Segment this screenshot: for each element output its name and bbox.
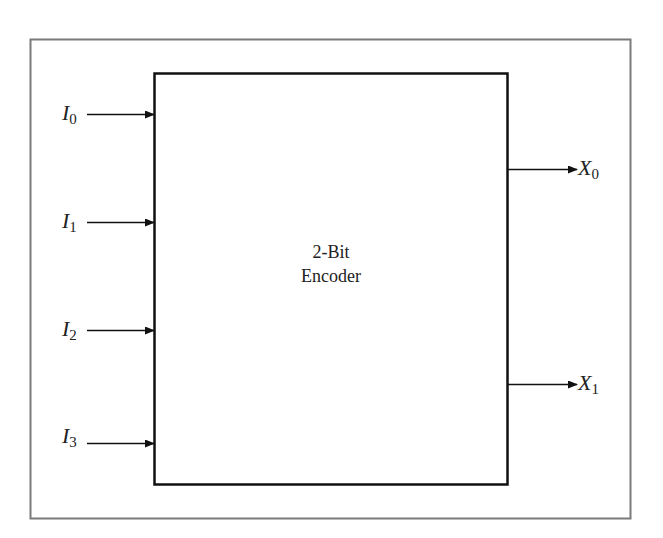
block-title-line2: Encoder bbox=[301, 266, 361, 286]
svg-text:I0: I0 bbox=[61, 100, 77, 127]
encoder-diagram: 2-Bit Encoder I0 I1 I2 I3 X0 X1 bbox=[0, 0, 663, 538]
output-subscript: 0 bbox=[591, 166, 599, 182]
svg-text:X0: X0 bbox=[577, 155, 599, 182]
svg-text:I2: I2 bbox=[61, 316, 77, 343]
input-i0: I0 bbox=[61, 100, 154, 127]
input-subscript: 3 bbox=[69, 434, 77, 450]
svg-text:X1: X1 bbox=[577, 370, 599, 397]
input-subscript: 2 bbox=[69, 327, 77, 343]
input-i3: I3 bbox=[61, 423, 154, 450]
svg-text:I3: I3 bbox=[61, 423, 77, 450]
svg-text:I1: I1 bbox=[61, 208, 77, 235]
input-i2: I2 bbox=[61, 316, 154, 343]
input-subscript: 1 bbox=[69, 219, 77, 235]
input-subscript: 0 bbox=[69, 111, 77, 127]
output-subscript: 1 bbox=[591, 381, 599, 397]
input-i1: I1 bbox=[61, 208, 154, 235]
output-x1: X1 bbox=[508, 370, 599, 397]
block-title-line1: 2-Bit bbox=[312, 242, 349, 262]
output-x0: X0 bbox=[508, 155, 599, 182]
